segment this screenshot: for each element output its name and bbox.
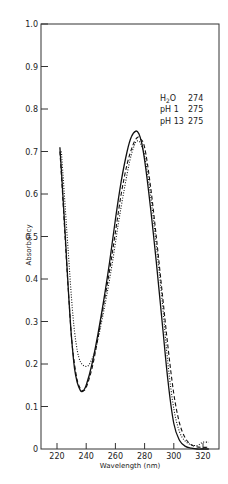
y-tick-label: 1.0 bbox=[25, 20, 38, 29]
legend: H2O 274 pH 1 275 pH 13 275 bbox=[160, 94, 203, 126]
x-tick-label: 220 bbox=[49, 452, 64, 461]
legend-value-h2o: 274 bbox=[188, 94, 203, 103]
y-tick-label: 0.8 bbox=[25, 105, 38, 114]
x-tick-label: 320 bbox=[195, 452, 210, 461]
y-tick-label: 0.4 bbox=[25, 275, 38, 284]
y-axis-title: Absorbancy bbox=[25, 224, 33, 265]
absorbance-chart: 00.10.20.30.40.50.60.70.80.91.0 22024026… bbox=[0, 0, 228, 484]
x-axis-title: Wavelength (nm) bbox=[100, 462, 161, 470]
legend-value-ph13: 275 bbox=[188, 117, 203, 126]
data-series bbox=[60, 131, 209, 449]
series-line-ph1 bbox=[61, 141, 208, 446]
y-tick-label: 0.2 bbox=[25, 360, 38, 369]
y-tick-label: 0.3 bbox=[25, 318, 38, 327]
y-tick-label: 0.6 bbox=[25, 190, 38, 199]
x-tick-label: 280 bbox=[137, 452, 152, 461]
legend-label-ph13: pH 13 bbox=[160, 117, 184, 126]
series-line-ph13 bbox=[60, 137, 209, 447]
y-tick-label: 0.7 bbox=[25, 148, 38, 157]
series-line-h2o bbox=[60, 131, 209, 449]
y-tick-label: 0.1 bbox=[25, 403, 38, 412]
y-tick-label: 0 bbox=[33, 445, 38, 454]
legend-label-h2o: H2O bbox=[160, 94, 176, 104]
x-tick-label: 240 bbox=[79, 452, 94, 461]
legend-value-ph1: 275 bbox=[188, 105, 203, 114]
plot-frame bbox=[41, 24, 219, 449]
x-tick-label: 260 bbox=[108, 452, 123, 461]
y-tick-label: 0.9 bbox=[25, 63, 38, 72]
legend-label-ph1: pH 1 bbox=[160, 105, 179, 114]
x-tick-label: 300 bbox=[166, 452, 181, 461]
x-axis: 220240260280300320 bbox=[49, 443, 210, 461]
